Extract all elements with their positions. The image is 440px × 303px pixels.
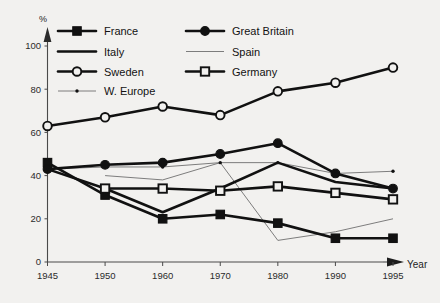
x-tick-label: 1980 [267,270,288,281]
chart-canvas: 020406080100 194519501960197019801990199… [0,0,440,303]
x-tick-label: 1950 [95,270,116,281]
series-marker [274,139,283,148]
legend-label: Sweden [104,66,144,78]
legend-label: Germany [232,66,278,78]
y-tick-label: 20 [30,213,41,224]
x-tick-label: 1960 [152,270,173,281]
series-marker [331,78,340,87]
x-tick-label: 1945 [37,270,58,281]
line-chart: 020406080100 194519501960197019801990199… [0,0,440,303]
y-tick-label: 60 [30,127,41,138]
series-marker [219,161,222,164]
series-marker [158,158,167,167]
series-marker [389,195,397,203]
series-marker [331,234,339,242]
legend-label: W. Europe [104,85,155,97]
series-marker [216,187,224,195]
series-marker [389,234,397,242]
series-marker [101,161,110,170]
legend-marker-icon [73,67,82,76]
x-tick-label: 1970 [210,270,231,281]
series-marker [274,182,282,190]
x-axis-label: Year [407,259,428,270]
series-marker [331,169,340,178]
series-marker [274,87,283,96]
legend-label: Italy [104,46,125,58]
legend-label: Spain [232,46,260,58]
series-marker [216,210,224,218]
legend-label: France [104,25,138,37]
legend-label: Great Britain [232,25,294,37]
series-marker [274,219,282,227]
series-marker [158,102,167,111]
legend-marker-icon [75,89,78,92]
series-marker [158,184,166,192]
y-tick-label: 100 [25,40,41,51]
series-marker [101,184,109,192]
legend-marker-icon [201,67,209,75]
legend-marker-icon [201,27,210,36]
legend-marker-icon [73,27,81,35]
x-tick-label: 1990 [325,270,346,281]
series-marker [216,150,225,159]
y-axis-unit-label: % [39,14,47,24]
series-marker [389,63,398,72]
y-tick-label: 80 [30,84,41,95]
series-marker [216,111,225,120]
series-marker [331,189,339,197]
y-tick-label: 0 [36,256,41,267]
series-marker [43,122,52,131]
series-marker [158,215,166,223]
series-marker [391,170,394,173]
series-marker [101,113,110,122]
y-tick-label: 40 [30,170,41,181]
x-tick-label: 1995 [382,270,403,281]
